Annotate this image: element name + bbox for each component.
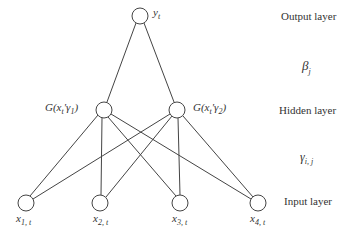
layer-label-output: Output layer [281,10,336,22]
label-input-4: x4, t [250,212,265,227]
edge-h2-y [144,23,174,102]
edge-x3-h1 [108,117,176,196]
edge-x2-h2 [106,116,172,197]
layer-label-input: Input layer [284,195,332,207]
node-input-4 [250,195,266,211]
label-hidden-2: G(xt'γ2) [193,101,226,116]
node-input-1 [18,195,34,211]
edge-x1-h1 [30,115,98,196]
label-output-node: yt [153,6,160,21]
weight-label-beta: βj [302,58,311,76]
node-input-3 [172,195,188,211]
node-output [132,8,148,24]
node-hidden-2 [169,102,185,118]
edge-x4-h1 [111,114,251,199]
label-input-3: x3, t [172,212,187,227]
edge-h1-y [107,23,136,102]
edge-x4-h2 [183,116,253,197]
node-input-2 [92,195,108,211]
node-hidden-1 [96,102,112,118]
label-hidden-1: G(xt'γ1) [45,101,78,116]
edge-x3-h2 [178,118,180,195]
label-input-2: x2, t [93,212,108,227]
label-input-1: x1, t [16,212,31,227]
weight-label-gamma: γi, j [300,150,313,166]
layer-label-hidden: Hidden layer [279,104,336,116]
